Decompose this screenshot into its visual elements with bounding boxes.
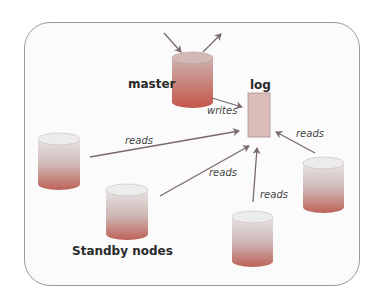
- writes-label: writes: [207, 105, 237, 116]
- reads-arrow-1: [90, 131, 239, 157]
- outgoing-arrow: [203, 34, 221, 52]
- reads-arrow-3: [253, 148, 257, 202]
- master-label: master: [128, 77, 176, 91]
- reads-label-1: reads: [125, 135, 153, 146]
- reads-label-4: reads: [296, 128, 324, 139]
- standby-db-icon-3: [232, 211, 273, 267]
- incoming-arrow: [164, 33, 181, 52]
- replication-diagram: [0, 0, 377, 303]
- reads-label-2: reads: [209, 167, 237, 178]
- log-label: log: [250, 78, 271, 92]
- master-db-icon: [172, 52, 213, 108]
- standby-db-icon-4: [303, 157, 344, 213]
- log-box: [248, 93, 270, 137]
- standby-db-icon-2: [106, 184, 148, 240]
- standby-db-icon-1: [38, 133, 80, 190]
- standby-nodes-label: Standby nodes: [72, 244, 173, 258]
- reads-label-3: reads: [260, 189, 288, 200]
